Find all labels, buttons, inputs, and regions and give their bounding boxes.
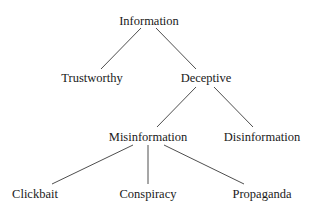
- node-clickbait: Clickbait: [12, 188, 58, 201]
- tree-edges: [0, 0, 314, 212]
- node-disinformation: Disinformation: [224, 131, 300, 144]
- node-conspiracy: Conspiracy: [120, 188, 177, 201]
- edge-deceptive-disinformation: [214, 87, 253, 127]
- node-information: Information: [119, 15, 179, 28]
- taxonomy-tree: Information Trustworthy Deceptive Misinf…: [0, 0, 314, 212]
- edge-information-trustworthy: [101, 28, 141, 69]
- node-deceptive: Deceptive: [181, 72, 232, 85]
- edge-misinformation-clickbait: [52, 145, 133, 184]
- node-misinformation: Misinformation: [109, 131, 187, 144]
- edge-information-deceptive: [156, 28, 196, 69]
- node-trustworthy: Trustworthy: [61, 72, 122, 85]
- node-propaganda: Propaganda: [232, 188, 291, 201]
- edge-misinformation-propaganda: [164, 145, 244, 184]
- edge-deceptive-misinformation: [157, 87, 196, 127]
